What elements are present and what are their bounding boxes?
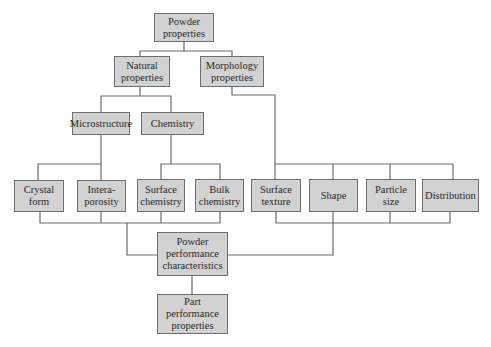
node-surface-chemistry: Surface chemistry [137,179,185,212]
node-bulk-chemistry: Bulk chemistry [195,179,244,212]
node-part-performance: Part performance properties [157,294,228,334]
node-crystal-form: Crystal form [14,180,64,212]
connector-lines [0,0,491,347]
node-interaporosity: Intera- porosity [77,180,126,212]
node-particle-size: Particle size [366,179,416,212]
node-natural-properties: Natural properties [114,56,170,87]
node-powder-properties: Powder properties [154,13,214,42]
node-chemistry: Chemistry [141,112,204,135]
node-distribution: Distribution [422,179,479,212]
node-shape: Shape [309,179,358,212]
node-powder-performance: Powder performance characteristics [157,232,228,276]
node-microstructure: Microstructure [72,112,130,135]
diagram-canvas: Powder properties Natural properties Mor… [0,0,491,347]
node-morphology-properties: Morphology properties [200,56,264,87]
node-surface-texture: Surface texture [251,179,301,212]
